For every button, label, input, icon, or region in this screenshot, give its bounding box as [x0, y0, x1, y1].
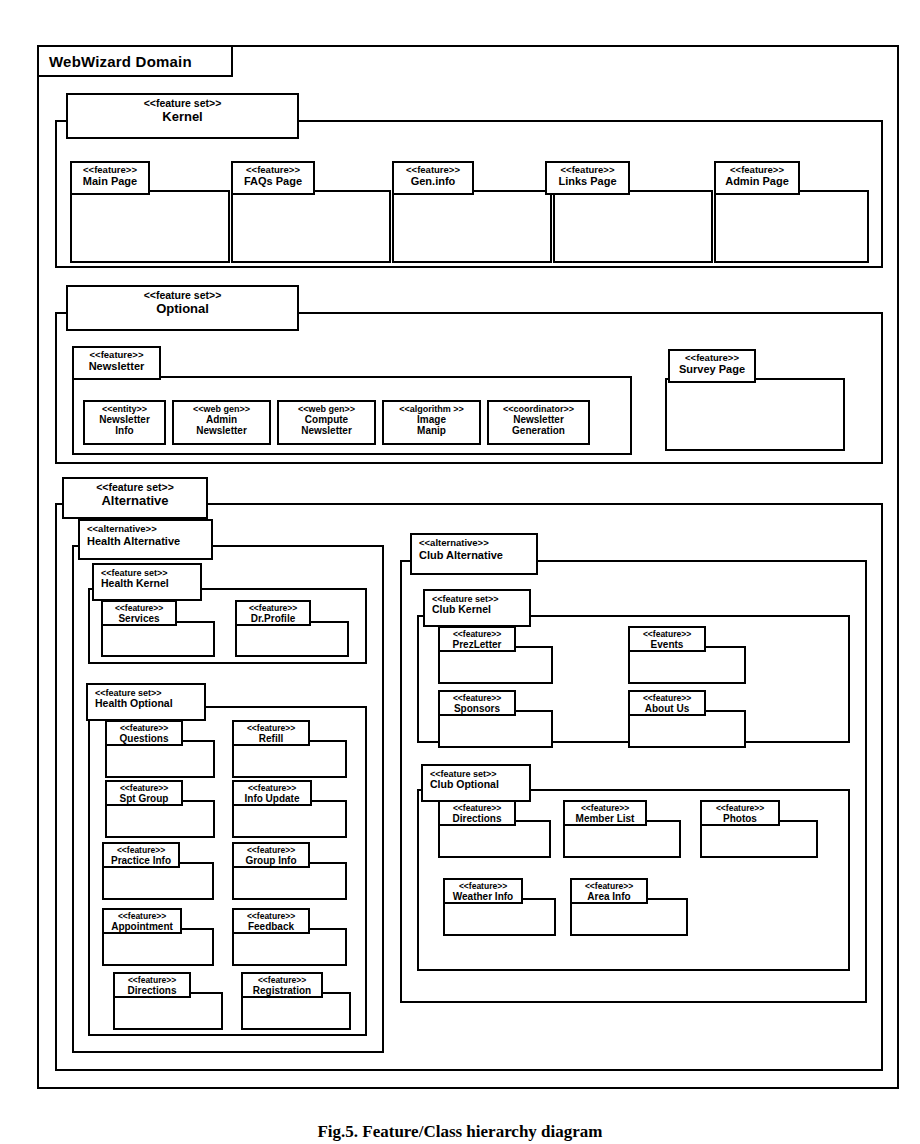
component-line2: Generation	[489, 425, 588, 436]
feature-stereotype: <<feature>>	[237, 604, 309, 613]
alternative-name: Alternative	[64, 494, 206, 509]
feature-body-faqs-page	[231, 190, 391, 263]
component-compute-newsletter[interactable]: <<web gen>> Compute Newsletter	[277, 400, 376, 445]
health-optional-tab: <<feature set>> Health Optional	[86, 683, 206, 721]
feature-stereotype: <<feature>>	[234, 846, 308, 855]
feature-label-services: Services	[103, 613, 175, 624]
feature-body-survey-page	[665, 378, 845, 451]
component-line2: Newsletter	[174, 425, 269, 436]
feature-tab-admin-page[interactable]: <<feature>> Admin Page	[714, 161, 800, 195]
feature-tab-gen-info[interactable]: <<feature>> Gen.info	[392, 161, 474, 195]
feature-stereotype: <<feature>>	[103, 604, 175, 613]
club-optional-tab: <<feature set>> Club Optional	[421, 764, 531, 802]
optional-name: Optional	[68, 302, 297, 317]
feature-tab-member-list[interactable]: <<feature>> Member List	[563, 800, 647, 826]
figure-caption: Fig.5. Feature/Class hierarchy diagram	[0, 1122, 920, 1142]
feature-tab-newsletter[interactable]: <<feature>> Newsletter	[72, 346, 161, 380]
alternative-feature-set-tab: <<feature set>> Alternative	[62, 477, 208, 519]
feature-stereotype: <<feature>>	[670, 353, 754, 363]
feature-tab-services[interactable]: <<feature>> Services	[101, 600, 177, 626]
feature-label-newsletter: Newsletter	[74, 360, 159, 372]
component-line2: Manip	[384, 425, 479, 436]
feature-stereotype: <<feature>>	[107, 784, 181, 793]
feature-label-dr-profile: Dr.Profile	[237, 613, 309, 624]
feature-stereotype: <<feature>>	[716, 165, 798, 175]
feature-stereotype: <<feature>>	[572, 882, 646, 891]
feature-stereotype: <<feature>>	[565, 804, 645, 813]
feature-stereotype: <<feature>>	[104, 846, 178, 855]
feature-body-links-page	[553, 190, 713, 263]
feature-tab-area-info[interactable]: <<feature>> Area Info	[570, 878, 648, 904]
feature-label-registration: Registration	[243, 985, 321, 996]
feature-tab-dr-profile[interactable]: <<feature>> Dr.Profile	[235, 600, 311, 626]
optional-stereotype: <<feature set>>	[68, 290, 297, 302]
feature-label-refill: Refill	[234, 733, 308, 744]
feature-stereotype: <<feature>>	[445, 882, 521, 891]
feature-tab-survey-page[interactable]: <<feature>> Survey Page	[668, 349, 756, 383]
feature-tab-main-page[interactable]: <<feature>> Main Page	[70, 161, 150, 195]
feature-tab-practice-info[interactable]: <<feature>> Practice Info	[102, 842, 180, 868]
feature-label-spt-group: Spt Group	[107, 793, 181, 804]
webwizard-domain-title-tab: WebWizard Domain	[37, 45, 233, 77]
feature-tab-registration[interactable]: <<feature>> Registration	[241, 972, 323, 998]
feature-tab-prezletter[interactable]: <<feature>> PrezLetter	[438, 626, 516, 652]
feature-label-survey-page: Survey Page	[670, 363, 754, 375]
feature-label-weather-info: Weather Info	[445, 891, 521, 902]
feature-body-services	[101, 621, 215, 657]
component-stereotype: <<web gen>>	[174, 404, 269, 414]
feature-tab-group-info[interactable]: <<feature>> Group Info	[232, 842, 310, 868]
feature-tab-feedback[interactable]: <<feature>> Feedback	[232, 908, 310, 934]
feature-label-main-page: Main Page	[72, 175, 148, 187]
feature-tab-refill[interactable]: <<feature>> Refill	[232, 720, 310, 746]
feature-tab-about-us[interactable]: <<feature>> About Us	[628, 690, 706, 716]
feature-stereotype: <<feature>>	[107, 724, 181, 733]
feature-tab-links-page[interactable]: <<feature>> Links Page	[545, 161, 630, 195]
feature-tab-club-directions[interactable]: <<feature>> Directions	[438, 800, 516, 826]
feature-label-info-update: Info Update	[234, 793, 310, 804]
feature-body-dr-profile	[235, 621, 349, 657]
feature-tab-info-update[interactable]: <<feature>> Info Update	[232, 780, 312, 806]
feature-label-admin-page: Admin Page	[716, 175, 798, 187]
feature-tab-weather-info[interactable]: <<feature>> Weather Info	[443, 878, 523, 904]
feature-stereotype: <<feature>>	[234, 724, 308, 733]
feature-label-practice-info: Practice Info	[104, 855, 178, 866]
feature-tab-faqs-page[interactable]: <<feature>> FAQs Page	[231, 161, 315, 195]
diagram-canvas: WebWizard Domain <<feature set>> Kernel …	[0, 0, 920, 1144]
health-kernel-tab: <<feature set>> Health Kernel	[92, 563, 202, 601]
feature-tab-appointment[interactable]: <<feature>> Appointment	[102, 908, 182, 934]
component-stereotype: <<coordinator>>	[489, 404, 588, 414]
component-admin-newsletter[interactable]: <<web gen>> Admin Newsletter	[172, 400, 271, 445]
feature-stereotype: <<feature>>	[233, 165, 313, 175]
feature-tab-spt-group[interactable]: <<feature>> Spt Group	[105, 780, 183, 806]
feature-stereotype: <<feature>>	[440, 694, 514, 703]
component-line1: Image	[384, 414, 479, 425]
component-newsletter-generation[interactable]: <<coordinator>> Newsletter Generation	[487, 400, 590, 445]
alternative-stereotype: <<feature set>>	[64, 482, 206, 494]
feature-label-sponsors: Sponsors	[440, 703, 514, 714]
feature-tab-sponsors[interactable]: <<feature>> Sponsors	[438, 690, 516, 716]
club-optional-name: Club Optional	[430, 779, 529, 791]
feature-label-health-directions: Directions	[115, 985, 189, 996]
club-kernel-name: Club Kernel	[432, 604, 529, 616]
feature-tab-photos[interactable]: <<feature>> Photos	[700, 800, 780, 826]
feature-body-gen-info	[392, 190, 552, 263]
component-newsletter-info[interactable]: <<entity>> Newsletter Info	[83, 400, 166, 445]
feature-tab-health-directions[interactable]: <<feature>> Directions	[113, 972, 191, 998]
feature-stereotype: <<feature>>	[234, 912, 308, 921]
feature-stereotype: <<feature>>	[72, 165, 148, 175]
component-image-manip[interactable]: <<algorithm >> Image Manip	[382, 400, 481, 445]
feature-stereotype: <<feature>>	[104, 912, 180, 921]
feature-body-admin-page	[714, 190, 869, 263]
feature-tab-questions[interactable]: <<feature>> Questions	[105, 720, 183, 746]
feature-label-gen-info: Gen.info	[394, 175, 472, 187]
feature-label-photos: Photos	[702, 813, 778, 824]
feature-stereotype: <<feature>>	[115, 976, 189, 985]
health-optional-name: Health Optional	[95, 698, 204, 710]
feature-stereotype: <<feature>>	[547, 165, 628, 175]
component-line1: Admin	[174, 414, 269, 425]
feature-tab-events[interactable]: <<feature>> Events	[628, 626, 706, 652]
feature-stereotype: <<feature>>	[702, 804, 778, 813]
feature-label-member-list: Member List	[565, 813, 645, 824]
feature-stereotype: <<feature>>	[440, 804, 514, 813]
feature-stereotype: <<feature>>	[630, 694, 704, 703]
